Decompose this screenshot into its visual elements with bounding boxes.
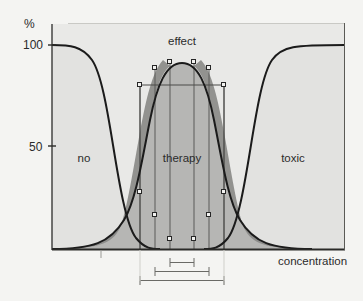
y-tick-label-50: 50 xyxy=(29,140,43,154)
chart-canvas: % 100 50 concentration effect no therapy… xyxy=(0,0,363,301)
marker xyxy=(168,237,172,241)
therapy-region-label: therapy xyxy=(163,152,202,164)
effect-curve-label: effect xyxy=(168,35,197,47)
therapeutic-window-figure: % 100 50 concentration effect no therapy… xyxy=(0,0,363,301)
marker xyxy=(138,190,142,194)
marker xyxy=(207,213,211,217)
marker xyxy=(192,60,196,64)
marker xyxy=(138,83,142,87)
toxic-region-label: toxic xyxy=(281,152,305,164)
marker xyxy=(222,190,226,194)
y-axis-label: % xyxy=(24,17,35,31)
y-tick-label-100: 100 xyxy=(23,38,43,52)
marker xyxy=(168,60,172,64)
marker xyxy=(153,66,157,70)
no-effect-region-label: no xyxy=(78,152,91,164)
marker xyxy=(222,83,226,87)
marker xyxy=(207,66,211,70)
marker xyxy=(153,213,157,217)
x-axis-label: concentration xyxy=(278,255,347,267)
marker xyxy=(192,237,196,241)
